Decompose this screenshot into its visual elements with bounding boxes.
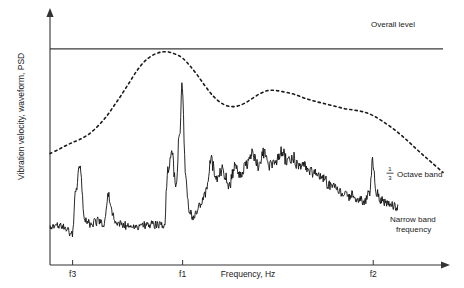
y-axis-arrow-icon xyxy=(46,8,53,17)
overall-level-label: Overall level xyxy=(371,20,415,29)
narrow-band-label-line2: frequency xyxy=(396,225,431,234)
x-axis-title: Frequency, Hz xyxy=(221,269,276,279)
x-axis-arrow-icon xyxy=(441,261,450,268)
y-axis-title: Vibration velocity, waveform, PSD xyxy=(16,53,26,180)
third-octave-fraction-denominator: 3 xyxy=(388,175,392,181)
x-tick-label-f3: f3 xyxy=(69,269,76,279)
x-tick-label-f2: f2 xyxy=(370,269,377,279)
narrow-band-frequency-curve xyxy=(50,83,398,237)
narrow-band-label-line1: Narrow band xyxy=(390,215,436,224)
axis-group xyxy=(46,8,450,269)
narrow-band-label-group: Narrow band frequency xyxy=(390,215,436,234)
x-tick-label-f1: f1 xyxy=(179,269,186,279)
third-octave-band-curve xyxy=(50,52,443,173)
third-octave-fraction-numerator: 1 xyxy=(388,166,392,172)
third-octave-band-label-group: 1 3 Octave band xyxy=(387,166,443,181)
chart-container: f3f1f2 Vibration velocity, waveform, PSD… xyxy=(0,0,464,288)
vibration-spectrum-chart: f3f1f2 Vibration velocity, waveform, PSD… xyxy=(0,0,464,288)
third-octave-band-label: Octave band xyxy=(397,170,442,179)
